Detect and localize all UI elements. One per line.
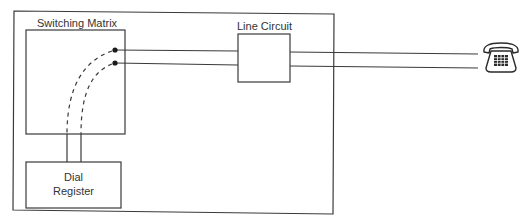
switching-matrix-label: Switching Matrix <box>37 17 117 30</box>
dial-register-label-line2: Register <box>26 185 121 198</box>
crosspoint-dot-ring <box>112 60 117 65</box>
wire-ring-matrix-to-line-circuit <box>115 63 238 65</box>
dashed-path-inner <box>81 64 112 134</box>
wire-ring-line-circuit-to-telephone <box>290 66 478 68</box>
crosspoint-dot-tip <box>112 47 117 52</box>
line-circuit-box <box>238 34 290 82</box>
wire-tip-matrix-to-line-circuit <box>115 50 238 51</box>
line-circuit-label: Line Circuit <box>237 20 292 33</box>
dial-register-label-line1: Dial <box>26 171 121 184</box>
wire-tip-line-circuit-to-telephone <box>290 52 478 54</box>
dashed-path-outer <box>67 51 112 134</box>
switching-matrix-box <box>26 30 125 134</box>
telephone-icon <box>484 43 518 72</box>
